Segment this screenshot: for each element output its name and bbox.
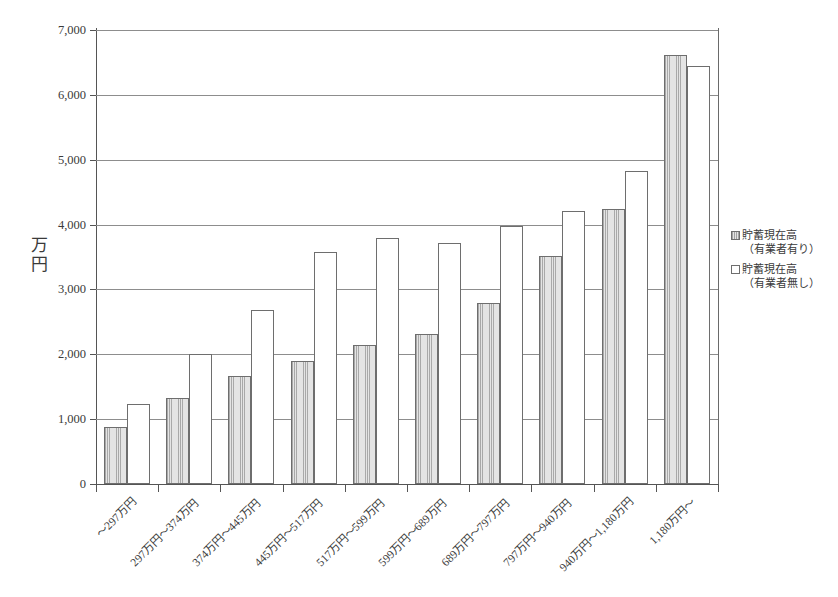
x-tick-mark (96, 485, 97, 492)
legend-row-primary: 貯蓄現在高 (731, 262, 831, 276)
y-tick-label: 7,000 (28, 24, 86, 36)
x-tick-label: 374万円～445万円 (190, 496, 262, 568)
x-tick-mark (283, 485, 284, 492)
y-tick-label: 6,000 (28, 89, 86, 101)
legend-entry: 貯蓄現在高（有業者無し） (731, 262, 831, 290)
legend-entry: 貯蓄現在高（有業者有り） (731, 228, 831, 256)
bar (189, 354, 212, 484)
y-tick-label-wrap: 1,000 (24, 413, 86, 425)
bar (314, 252, 337, 484)
gridline (96, 160, 718, 161)
plot-right-border (718, 28, 719, 485)
gridline (96, 30, 718, 31)
bar (500, 226, 523, 484)
x-tick-label: 689万円～797万円 (439, 496, 511, 568)
x-tick-mark (656, 485, 657, 492)
y-tick-label: 4,000 (28, 219, 86, 231)
y-axis-title: 万 円 (24, 236, 54, 274)
x-tick-mark (469, 485, 470, 492)
legend-label-line2: （有業者無し） (731, 276, 831, 290)
bar (291, 361, 314, 484)
bar (477, 303, 500, 484)
y-tick-label: 1,000 (28, 413, 86, 425)
x-tick-label: 599万円～689万円 (376, 496, 448, 568)
legend-label-line2: （有業者有り） (731, 242, 831, 256)
y-tick-label-wrap: 7,000 (24, 24, 86, 36)
bar (664, 55, 687, 484)
legend-label-line1: 貯蓄現在高 (742, 263, 797, 275)
bar (687, 66, 710, 484)
y-tick-label: 2,000 (28, 348, 86, 360)
bar (166, 398, 189, 484)
bar (415, 334, 438, 484)
legend-swatch-gray (731, 231, 740, 240)
y-tick-label-wrap: 2,000 (24, 348, 86, 360)
x-tick-label: 445万円～517万円 (252, 496, 324, 568)
x-tick-label: ～297万円 (94, 496, 138, 540)
y-tick-label: 3,000 (28, 283, 86, 295)
gridline (96, 95, 718, 96)
bar-chart: 万 円 01,0002,0003,0004,0005,0006,0007,000… (0, 0, 838, 597)
legend-label-line1: 貯蓄現在高 (742, 229, 797, 241)
x-tick-mark (345, 485, 346, 492)
bar (251, 310, 274, 484)
x-tick-label: 517万円～599万円 (314, 496, 386, 568)
bar (104, 427, 127, 484)
x-tick-mark (718, 485, 719, 492)
y-tick-label-wrap: 3,000 (24, 283, 86, 295)
bar (228, 376, 251, 484)
x-tick-label: 797万円～940万円 (501, 496, 573, 568)
y-tick-label-wrap: 5,000 (24, 154, 86, 166)
bar (625, 171, 648, 484)
bar (127, 404, 150, 484)
x-tick-mark (594, 485, 595, 492)
x-tick-label: 1,180万円～ (647, 496, 697, 546)
bar (539, 256, 562, 484)
x-tick-mark (158, 485, 159, 492)
x-tick-mark (407, 485, 408, 492)
legend: 貯蓄現在高（有業者有り）貯蓄現在高（有業者無し） (731, 228, 831, 296)
x-tick-mark (531, 485, 532, 492)
y-tick-label-wrap: 0 (24, 478, 86, 490)
bar (438, 243, 461, 484)
legend-swatch-white (731, 265, 740, 274)
y-tick-label-wrap: 4,000 (24, 219, 86, 231)
plot-area (96, 30, 718, 484)
y-tick-label: 0 (28, 478, 86, 490)
y-tick-label: 5,000 (28, 154, 86, 166)
bar (353, 345, 376, 484)
x-tick-mark (220, 485, 221, 492)
bar (376, 238, 399, 484)
x-tick-label: 297万円～374万円 (128, 496, 200, 568)
bar (602, 209, 625, 484)
legend-row-primary: 貯蓄現在高 (731, 228, 831, 242)
bar (562, 211, 585, 484)
y-tick-label-wrap: 6,000 (24, 89, 86, 101)
